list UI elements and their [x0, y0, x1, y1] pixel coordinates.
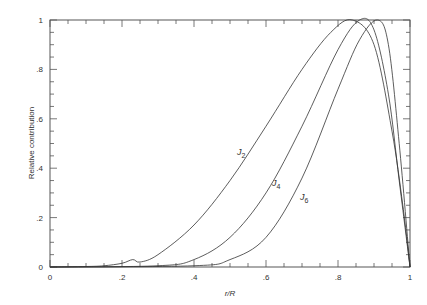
curve-j2 — [50, 20, 410, 267]
x-axis-label: r/R — [225, 289, 236, 298]
y-tick-label: 0 — [39, 263, 44, 272]
data-curves — [50, 18, 410, 267]
y-tick-label: 1 — [39, 16, 44, 25]
x-tick-label: 0 — [48, 273, 53, 282]
y-axis-label: Relative contribution — [27, 107, 36, 179]
label-j2: J2 — [236, 147, 246, 159]
label-j4: J4 — [271, 178, 281, 190]
x-tick-label: 1 — [408, 273, 413, 282]
curve-j4 — [50, 18, 410, 267]
x-tick-label: .4 — [191, 273, 198, 282]
x-tick-label: .8 — [335, 273, 342, 282]
y-tick-label: .2 — [36, 214, 43, 223]
y-tick-label: .8 — [36, 65, 43, 74]
y-tick-label: .6 — [36, 115, 43, 124]
chart: 0.2.4.6.810.2.4.6.81 J2J4J6 r/R Relative… — [0, 0, 427, 305]
curve-j6 — [50, 20, 410, 267]
plot-frame — [50, 20, 410, 267]
y-tick-label: .4 — [36, 164, 43, 173]
label-j6: J6 — [299, 192, 309, 204]
x-tick-label: .6 — [263, 273, 270, 282]
x-tick-label: .2 — [119, 273, 126, 282]
